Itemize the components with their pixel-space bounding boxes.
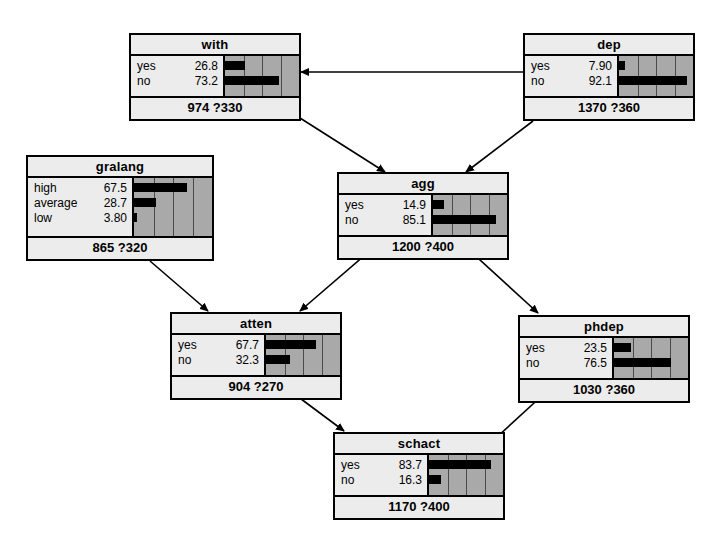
node-atten-body: yes 67.7 no 32.3 <box>172 335 340 377</box>
row-label: no <box>520 356 539 370</box>
node-schact-footer: 1170 ?400 <box>335 497 503 518</box>
node-schact-labels: yes 83.7 no 16.3 <box>335 455 427 495</box>
row-line: high 67.5 <box>28 180 132 195</box>
row-value: 14.9 <box>364 198 431 212</box>
row-value: 73.2 <box>150 74 223 88</box>
bar-fill <box>225 76 279 85</box>
bar-fill <box>134 183 187 192</box>
node-atten[interactable]: atten yes 67.7 no 32.3 904 ?270 <box>170 312 342 400</box>
diagram-canvas: with yes 26.8 no 73.2 974 ?330 dep yes <box>0 0 705 538</box>
node-dep[interactable]: dep yes 7.90 no 92.1 1370 ?360 <box>523 33 695 121</box>
node-with-title: with <box>131 35 299 56</box>
node-phdep-labels: yes 23.5 no 76.5 <box>520 338 612 378</box>
bar-fill <box>429 460 491 469</box>
row-label: yes <box>172 338 197 352</box>
node-gralang-body: high 67.5 average 28.7 low 3.80 <box>28 178 212 238</box>
row-label: no <box>172 353 191 367</box>
node-dep-footer: 1370 ?360 <box>525 98 693 119</box>
row-value: 26.8 <box>156 59 223 73</box>
row-value: 67.7 <box>197 338 264 352</box>
row-value: 83.7 <box>360 458 427 472</box>
node-agg-bars <box>431 195 507 235</box>
bar-row <box>614 355 688 370</box>
bar-row <box>429 472 503 487</box>
node-atten-title: atten <box>172 314 340 335</box>
row-line: no 76.5 <box>520 355 612 370</box>
bar-row <box>225 73 299 88</box>
bar-row <box>134 180 212 195</box>
row-line: average 28.7 <box>28 195 132 210</box>
bar-fill <box>134 213 137 222</box>
node-dep-body: yes 7.90 no 92.1 <box>525 56 693 98</box>
bar-row <box>614 340 688 355</box>
row-line: no 16.3 <box>335 472 427 487</box>
node-agg[interactable]: agg yes 14.9 no 85.1 1200 ?400 <box>337 172 509 260</box>
node-agg-footer: 1200 ?400 <box>339 237 507 258</box>
edge-with-to-agg <box>300 118 385 172</box>
node-schact-bars <box>427 455 503 495</box>
bar-row <box>266 352 340 367</box>
bar-fill <box>266 355 290 364</box>
row-label: average <box>28 196 77 210</box>
node-schact-body: yes 83.7 no 16.3 <box>335 455 503 497</box>
bar-fill <box>619 76 687 85</box>
node-with-body: yes 26.8 no 73.2 <box>131 56 299 98</box>
bar-fill <box>266 340 316 349</box>
row-line: low 3.80 <box>28 210 132 225</box>
bar-row <box>266 337 340 352</box>
bar-row <box>225 58 299 73</box>
row-line: no 73.2 <box>131 73 223 88</box>
row-line: no 92.1 <box>525 73 617 88</box>
node-with-labels: yes 26.8 no 73.2 <box>131 56 223 96</box>
row-label: yes <box>520 341 545 355</box>
bar-row <box>619 73 693 88</box>
node-schact[interactable]: schact yes 83.7 no 16.3 1170 ?400 <box>333 432 505 520</box>
row-label: no <box>335 473 354 487</box>
node-gralang-bars <box>132 178 212 236</box>
node-atten-labels: yes 67.7 no 32.3 <box>172 335 264 375</box>
row-value: 76.5 <box>539 356 612 370</box>
node-gralang[interactable]: gralang high 67.5 average 28.7 low 3.80 … <box>26 155 214 261</box>
row-label: high <box>28 181 57 195</box>
node-atten-bars <box>264 335 340 375</box>
row-value: 7.90 <box>550 59 617 73</box>
row-line: yes 67.7 <box>172 337 264 352</box>
row-label: no <box>339 213 358 227</box>
row-label: low <box>28 211 52 225</box>
node-agg-title: agg <box>339 174 507 195</box>
row-value: 92.1 <box>544 74 617 88</box>
row-label: no <box>525 74 544 88</box>
row-line: yes 83.7 <box>335 457 427 472</box>
row-line: yes 14.9 <box>339 197 431 212</box>
row-label: yes <box>339 198 364 212</box>
node-atten-footer: 904 ?270 <box>172 377 340 398</box>
node-dep-bars <box>617 56 693 96</box>
node-with-bars <box>223 56 299 96</box>
row-line: no 32.3 <box>172 352 264 367</box>
node-with[interactable]: with yes 26.8 no 73.2 974 ?330 <box>129 33 301 121</box>
row-value: 67.5 <box>57 181 132 195</box>
node-phdep-title: phdep <box>520 317 688 338</box>
edge-gralang-to-atten <box>150 261 208 311</box>
bar-fill <box>225 61 245 70</box>
row-line: yes 7.90 <box>525 58 617 73</box>
node-dep-labels: yes 7.90 no 92.1 <box>525 56 617 96</box>
bar-fill <box>614 343 631 352</box>
node-agg-labels: yes 14.9 no 85.1 <box>339 195 431 235</box>
edge-dep-to-agg <box>466 121 533 172</box>
row-value: 3.80 <box>52 211 132 225</box>
node-phdep[interactable]: phdep yes 23.5 no 76.5 1030 ?360 <box>518 315 690 403</box>
bar-row <box>134 195 212 210</box>
row-label: yes <box>525 59 550 73</box>
bar-fill <box>619 61 625 70</box>
row-line: yes 23.5 <box>520 340 612 355</box>
row-value: 85.1 <box>358 213 431 227</box>
bar-row <box>134 210 212 225</box>
bar-row <box>433 197 507 212</box>
node-agg-body: yes 14.9 no 85.1 <box>339 195 507 237</box>
row-value: 32.3 <box>191 353 264 367</box>
node-dep-title: dep <box>525 35 693 56</box>
bar-fill <box>433 215 496 224</box>
row-value: 23.5 <box>545 341 612 355</box>
node-gralang-labels: high 67.5 average 28.7 low 3.80 <box>28 178 132 236</box>
